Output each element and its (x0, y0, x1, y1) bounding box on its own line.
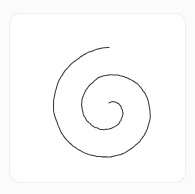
screenshot-root (0, 0, 195, 194)
sketch-canvas[interactable] (10, 14, 185, 182)
spiral-path (53, 47, 150, 157)
spiral-sketch-card[interactable] (9, 13, 186, 183)
spiral-drawing (10, 14, 186, 183)
